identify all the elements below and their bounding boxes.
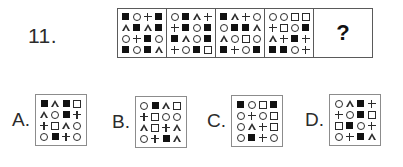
option-b[interactable]: B. [112,96,187,148]
symbol-cell-4-4 [153,44,164,55]
triangle-icon [193,13,201,20]
symbol-cell-2-3 [191,22,202,33]
filled-square-icon [346,122,353,129]
symbol-cell-1-1 [39,98,50,109]
symbol-cell-1-3 [257,99,268,110]
circle-icon [259,112,267,120]
circle-icon [40,133,48,141]
circle-icon [73,122,81,130]
symbol-cell-1-2 [246,99,257,110]
triangle-icon [140,124,148,131]
symbol-cell-4-2 [180,44,191,55]
symbol-cell-4-1 [39,131,50,142]
open-square-icon [270,112,278,120]
symbol-cell-4-2 [246,132,257,143]
symbol-cell-1-2 [50,98,61,109]
symbol-cell-3-4 [72,120,83,131]
triangle-icon [253,24,261,31]
triangle-icon [346,100,354,107]
plus-icon [259,134,267,142]
symbol-cell-2-3 [61,109,72,120]
option-d[interactable]: D. [305,94,381,146]
symbol-cell-4-1 [267,44,278,55]
triangle-icon [51,100,59,107]
plus-icon [242,13,250,21]
circle-icon [122,35,130,43]
circle-icon [253,13,261,21]
filled-square-icon [155,24,162,31]
option-d-box[interactable] [329,94,381,146]
symbol-cell-1-2 [180,11,191,22]
option-c[interactable]: C. [207,95,283,147]
symbol-cell-3-3 [61,120,72,131]
symbol-grid [139,100,183,144]
symbol-cell-4-1 [139,133,150,144]
symbol-cell-1-4 [153,11,164,22]
plus-icon [346,133,354,141]
filled-square-icon [41,100,48,107]
open-square-icon [302,13,310,21]
symbol-cell-1-2 [344,98,355,109]
option-c-box[interactable] [231,95,283,147]
sequence-panel-2 [167,9,216,57]
symbol-cell-1-3 [240,11,251,22]
symbol-cell-4-4 [300,44,311,55]
plus-icon [231,46,239,54]
option-d-label: D. [305,109,324,131]
answer-placeholder-cell[interactable]: ? [314,9,372,57]
filled-square-icon [248,134,255,141]
symbol-cell-2-1 [39,109,50,120]
circle-icon [269,13,277,21]
triangle-icon [122,24,130,31]
plus-icon [259,123,267,131]
symbol-cell-4-2 [50,131,61,142]
circle-icon [237,123,245,131]
symbol-cell-3-2 [150,122,161,133]
symbol-cell-4-1 [120,44,131,55]
symbol-grid [120,11,164,55]
circle-icon [73,133,81,141]
circle-icon [193,35,201,43]
options-row: A. B. C. D. [0,92,403,162]
circle-icon [51,111,59,119]
symbol-cell-2-4 [268,110,279,121]
symbol-cell-2-3 [161,111,172,122]
symbol-cell-3-3 [355,120,366,131]
symbol-cell-2-1 [139,111,150,122]
plus-icon [40,122,48,130]
filled-square-icon [357,133,364,140]
symbol-cell-2-4 [172,111,183,122]
triangle-icon [182,35,190,42]
symbol-cell-1-1 [218,11,229,22]
symbol-grid [218,11,262,55]
symbol-cell-2-1 [333,109,344,120]
symbol-grid [333,98,377,142]
open-square-icon [204,46,212,54]
symbol-cell-1-4 [366,98,377,109]
filled-square-icon [237,101,244,108]
symbol-cell-2-3 [355,109,366,120]
symbol-cell-3-4 [202,33,213,44]
symbol-grid [39,98,83,142]
option-b-box[interactable] [135,96,187,148]
symbol-cell-2-3 [257,110,268,121]
filled-square-icon [144,35,151,42]
symbol-cell-3-3 [161,122,172,133]
filled-square-icon [291,35,298,42]
circle-icon [140,102,148,110]
symbol-cell-4-3 [161,133,172,144]
symbol-cell-1-1 [333,98,344,109]
option-a-box[interactable] [35,94,87,146]
symbol-cell-3-1 [39,120,50,131]
symbol-cell-1-4 [172,100,183,111]
symbol-cell-3-3 [191,33,202,44]
option-a[interactable]: A. [12,94,87,146]
symbol-cell-1-3 [61,98,72,109]
symbol-cell-3-1 [218,33,229,44]
triangle-icon [248,123,256,130]
symbol-cell-3-1 [235,121,246,132]
symbol-cell-2-2 [229,22,240,33]
open-square-icon [280,24,288,32]
symbol-cell-4-3 [240,44,251,55]
option-a-label: A. [12,109,30,131]
